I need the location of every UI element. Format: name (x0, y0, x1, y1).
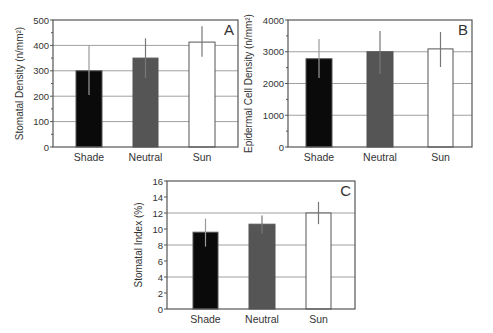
y-tick-label: 4000 (263, 15, 284, 26)
y-tick-label: 2000 (263, 78, 284, 89)
y-tick-label: 6 (158, 256, 163, 267)
category-label: Shade (74, 151, 105, 163)
y-tick-label: 12 (152, 208, 163, 219)
y-axis-label: Epidermal Cell Density (n/mm²) (243, 14, 254, 153)
category-label: Shade (304, 151, 335, 163)
y-tick-label: 200 (33, 91, 49, 102)
category-label: Sun (309, 313, 328, 325)
category-label: Neutral (129, 151, 163, 163)
panel-label: B (458, 21, 468, 38)
y-tick-label: 16 (152, 176, 163, 187)
category-label: Neutral (245, 313, 279, 325)
bar-neutral (249, 224, 275, 309)
panel-label: C (340, 182, 351, 199)
category-label: Shade (190, 313, 221, 325)
y-tick-label: 100 (33, 116, 49, 127)
category-label: Sun (193, 151, 212, 163)
y-tick-label: 8 (158, 240, 163, 251)
bar-sun (189, 42, 215, 147)
y-tick-label: 14 (152, 192, 163, 203)
y-tick-label: 0 (158, 304, 163, 315)
y-tick-label: 500 (33, 15, 49, 26)
y-tick-label: 4 (158, 272, 163, 283)
y-tick-label: 400 (33, 40, 49, 51)
figure: ShadeNeutralSun0100200300400500Stomatal … (0, 0, 493, 333)
y-tick-label: 3000 (263, 46, 284, 57)
y-tick-label: 300 (33, 65, 49, 76)
y-tick-label: 1000 (263, 110, 284, 121)
y-tick-label: 10 (152, 224, 163, 235)
panel-b-epidermal-cell-density-chart: ShadeNeutralSun01000200030004000Epiderma… (243, 14, 472, 163)
panel-a-stomatal-density-chart: ShadeNeutralSun0100200300400500Stomatal … (14, 15, 239, 164)
y-tick-label: 0 (279, 142, 284, 153)
y-tick-label: 2 (158, 288, 163, 299)
panel-c-stomatal-index-chart: ShadeNeutralSun0246810121416Stomatal Ind… (133, 176, 355, 326)
panel-label: A (224, 21, 234, 38)
y-axis-label: Stomatal Index (%) (133, 202, 144, 287)
category-label: Sun (431, 151, 450, 163)
y-tick-label: 0 (44, 142, 49, 153)
category-label: Neutral (363, 151, 397, 163)
y-axis-label: Stomatal Density (n/mm²) (14, 27, 25, 140)
bar-sun (306, 213, 331, 309)
